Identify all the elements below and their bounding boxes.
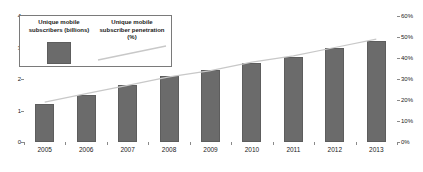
x-axis-year-label: 2010 <box>232 147 272 154</box>
x-axis-year-label: 2011 <box>273 147 313 154</box>
x-axis-year-label: 2006 <box>66 147 106 154</box>
y-axis-right-tick-label: 20% <box>401 97 413 103</box>
x-axis-year-label: 2012 <box>315 147 355 154</box>
x-axis-tick <box>65 142 66 145</box>
x-axis-year-label: 2008 <box>149 147 189 154</box>
legend-entry-penetration: Unique mobile subscriber penetration (%) <box>97 19 167 42</box>
chart-legend: Unique mobile subscribers (billions) Uni… <box>19 15 172 67</box>
x-axis-tick <box>24 142 25 145</box>
x-axis-year-label: 2005 <box>25 147 65 154</box>
y-axis-right-tick-label: 30% <box>401 76 413 82</box>
y-axis-left-tick-label: 2 <box>10 76 21 82</box>
y-axis-right-tick <box>397 100 400 101</box>
x-axis-tick <box>397 142 398 145</box>
y-axis-right-tick-label: 10% <box>401 118 413 124</box>
x-axis-tick <box>190 142 191 145</box>
y-axis-right-line <box>0 126 1 172</box>
x-axis-tick <box>231 142 232 145</box>
y-axis-right-tick-label: 0% <box>401 139 410 145</box>
x-axis-year-label: 2009 <box>191 147 231 154</box>
y-axis-right-tick <box>397 16 400 17</box>
y-axis-right-tick-label: 60% <box>401 13 413 19</box>
x-axis-tick <box>356 142 357 145</box>
x-axis-tick <box>314 142 315 145</box>
x-axis-year-label: 2013 <box>356 147 396 154</box>
combo-bar-line-chart: 01234 0%10%20%30%40%50%60% 2005200620072… <box>0 0 423 172</box>
x-axis-tick <box>273 142 274 145</box>
legend-entry-subscribers: Unique mobile subscribers (billions) <box>24 19 94 34</box>
y-axis-right-tick <box>397 58 400 59</box>
y-axis-left-line <box>0 0 1 126</box>
legend-line-swatch-icon <box>96 42 168 64</box>
y-axis-right-tick-label: 50% <box>401 34 413 40</box>
x-axis-tick <box>148 142 149 145</box>
y-axis-right-tick <box>397 79 400 80</box>
y-axis-left-tick-label: 0 <box>10 139 21 145</box>
y-axis-left-tick-label: 1 <box>10 108 21 114</box>
y-axis-right-tick-label: 40% <box>401 55 413 61</box>
y-axis-right-tick <box>397 37 400 38</box>
x-axis-year-label: 2007 <box>108 147 148 154</box>
legend-bar-swatch-icon <box>47 42 71 64</box>
y-axis-right-tick <box>397 121 400 122</box>
x-axis-tick <box>107 142 108 145</box>
